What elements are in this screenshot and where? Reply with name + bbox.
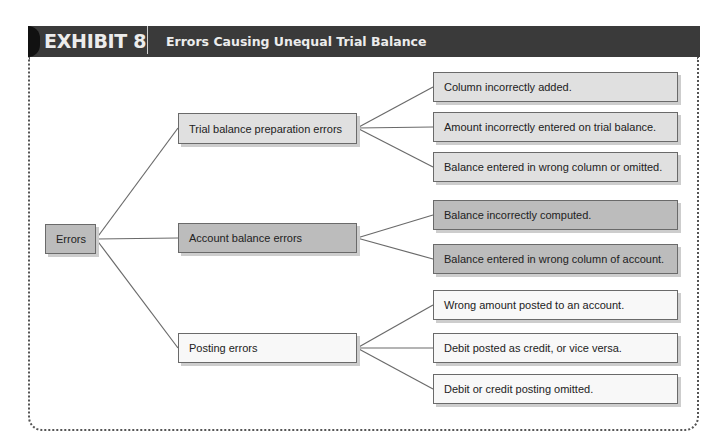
node-label: Balance entered in wrong column of accou…: [444, 253, 664, 265]
leaf-node: Balance entered in wrong column of accou…: [433, 244, 678, 274]
node-label: Posting errors: [189, 342, 257, 354]
node-label: Balance incorrectly computed.: [444, 209, 591, 221]
node-label: Column incorrectly added.: [444, 81, 572, 93]
leaf-node: Balance entered in wrong column or omitt…: [433, 152, 678, 182]
node-label: Debit posted as credit, or vice versa.: [444, 342, 622, 354]
leaf-node: Debit or credit posting omitted.: [433, 374, 678, 404]
node-label: Wrong amount posted to an account.: [444, 299, 624, 311]
leaf-node: Balance incorrectly computed.: [433, 200, 678, 230]
leaf-node: Column incorrectly added.: [433, 72, 678, 102]
leaf-node: Debit posted as credit, or vice versa.: [433, 333, 678, 363]
node-label: Balance entered in wrong column or omitt…: [444, 161, 662, 173]
node-label: Trial balance preparation errors: [189, 123, 342, 135]
category-node-trial-balance-preparation: Trial balance preparation errors: [178, 113, 357, 144]
category-node-account-balance: Account balance errors: [178, 223, 357, 253]
leaf-node: Amount incorrectly entered on trial bala…: [433, 112, 678, 142]
category-node-posting: Posting errors: [178, 333, 357, 363]
node-label: Amount incorrectly entered on trial bala…: [444, 121, 656, 133]
node-label: Errors: [56, 233, 86, 245]
root-node-errors: Errors: [45, 224, 96, 254]
node-label: Debit or credit posting omitted.: [444, 383, 593, 395]
node-label: Account balance errors: [189, 232, 302, 244]
leaf-node: Wrong amount posted to an account.: [433, 290, 678, 320]
